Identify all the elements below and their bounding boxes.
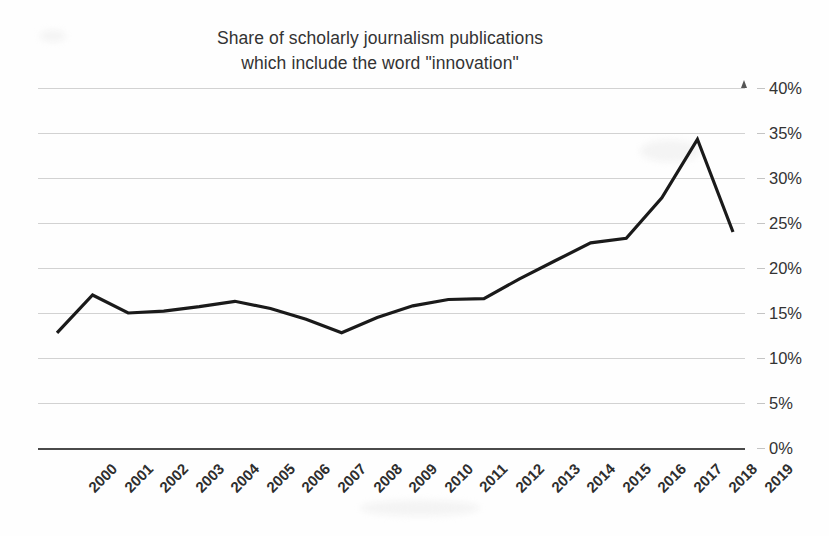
- y-axis-tick: [757, 178, 765, 179]
- y-axis-labels: 40%35%30%25%20%15%10%5%0%: [757, 88, 829, 448]
- x-axis-tick-label: 2017: [690, 460, 726, 496]
- y-axis-tick-label: 30%: [769, 169, 802, 188]
- x-axis-tick-label: 2006: [298, 460, 334, 496]
- x-axis-tick-label: 2015: [618, 460, 654, 496]
- x-axis-tick-label: 2018: [725, 460, 761, 496]
- y-axis-tick: [757, 88, 765, 89]
- x-axis-tick-label: 2004: [227, 460, 263, 496]
- y-axis-arrow-icon: [741, 80, 747, 88]
- x-axis-tick-label: 2003: [192, 460, 228, 496]
- x-axis-tick-label: 2002: [156, 460, 192, 496]
- y-axis-tick-label: 25%: [769, 214, 802, 233]
- x-axis-tick-label: 2019: [761, 460, 797, 496]
- y-axis-tick: [757, 403, 765, 404]
- x-axis-tick-label: 2001: [120, 460, 156, 496]
- x-axis-tick-label: 2016: [654, 460, 690, 496]
- line-series-svg: [38, 88, 745, 448]
- y-axis-tick-label: 5%: [769, 394, 793, 413]
- plot-area: [38, 88, 745, 448]
- x-axis-tick-label: 2009: [405, 460, 441, 496]
- x-axis-tick-label: 2010: [441, 460, 477, 496]
- y-axis-tick: [757, 268, 765, 269]
- y-axis-tick: [757, 358, 765, 359]
- y-axis-tick: [757, 448, 765, 449]
- y-axis-tick: [757, 223, 765, 224]
- x-axis-tick-label: 2000: [85, 460, 121, 496]
- x-axis-labels: 2000200120022003200420052006200720082009…: [0, 452, 829, 536]
- x-axis-tick-label: 2005: [263, 460, 299, 496]
- y-axis-tick-label: 20%: [769, 259, 802, 278]
- y-axis-tick-label: 15%: [769, 304, 802, 323]
- x-axis-tick-label: 2008: [369, 460, 405, 496]
- y-axis-tick: [757, 133, 765, 134]
- chart-title: Share of scholarly journalism publicatio…: [0, 26, 760, 76]
- x-axis-tick-label: 2013: [547, 460, 583, 496]
- x-axis-tick-label: 2012: [512, 460, 548, 496]
- series-line-innovation: [57, 139, 733, 332]
- x-axis-tick-label: 2011: [476, 460, 511, 495]
- y-axis-tick-label: 10%: [769, 349, 802, 368]
- chart-title-line-1: Share of scholarly journalism publicatio…: [0, 26, 760, 51]
- y-axis-tick-label: 40%: [769, 79, 802, 98]
- y-axis-tick: [757, 313, 765, 314]
- x-axis-tick-label: 2014: [583, 460, 619, 496]
- chart-title-line-2: which include the word "innovation": [0, 51, 760, 76]
- axis-baseline: [38, 448, 745, 450]
- x-axis-tick-label: 2007: [334, 460, 370, 496]
- y-axis-tick-label: 35%: [769, 124, 802, 143]
